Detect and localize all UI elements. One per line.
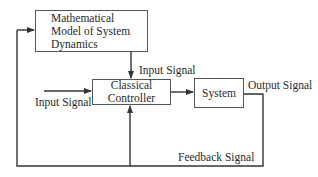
controller-block-line-2: Controller — [108, 92, 155, 105]
feedback-signal-label: Feedback Signal — [178, 151, 254, 163]
external-input-signal-label: Input Signal — [35, 96, 92, 108]
model-block-line-2: Model of System — [51, 25, 130, 38]
system-block: System — [194, 78, 244, 108]
model-block-line-3: Dynamics — [51, 38, 130, 51]
system-block-label: System — [202, 87, 236, 100]
output-signal-label: Output Signal — [248, 79, 312, 91]
model-input-signal-label: Input Signal — [139, 64, 196, 76]
controller-block-line-1: Classical — [108, 79, 155, 92]
model-block: Mathematical Model of System Dynamics — [35, 10, 148, 52]
model-block-line-1: Mathematical — [51, 12, 130, 25]
controller-block: Classical Controller — [92, 79, 171, 105]
